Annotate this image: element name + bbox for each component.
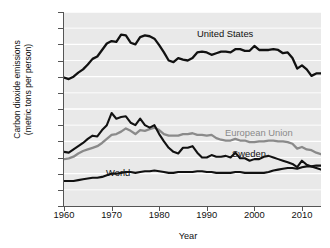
y-tick-mark (58, 93, 64, 94)
series-line-world (64, 166, 321, 181)
x-axis-title: Year (55, 231, 321, 241)
series-label-european-union: European Union (225, 127, 293, 138)
y-tick-mark (58, 44, 64, 45)
series-lines (64, 12, 321, 206)
co2-emissions-line-chart: Carbon dioxide emissions (metric tons pe… (0, 0, 330, 248)
x-tick-label: 2010 (292, 209, 313, 220)
y-tick-mark (58, 77, 64, 78)
y-tick-mark (58, 61, 64, 62)
plot-area (64, 12, 321, 206)
y-tick-mark (58, 109, 64, 110)
series-label-world: World (106, 167, 130, 178)
x-tick-label: 1980 (149, 209, 170, 220)
y-axis-title: Carbon dioxide emissions (metric tons pe… (12, 5, 33, 175)
y-tick-mark (58, 141, 64, 142)
y-tick-mark (58, 12, 64, 13)
x-tick-label: 1990 (196, 209, 217, 220)
x-tick-label: 2000 (244, 209, 265, 220)
y-tick-mark (58, 190, 64, 191)
series-line-united-states (64, 35, 321, 79)
series-label-united-states: United States (197, 28, 253, 39)
y-tick-mark (58, 174, 64, 175)
y-tick-mark (58, 28, 64, 29)
x-tick-label: 1960 (54, 209, 75, 220)
x-tick-label: 1970 (101, 209, 122, 220)
x-axis-line (63, 206, 321, 207)
y-tick-mark (58, 125, 64, 126)
y-tick-mark (58, 158, 64, 159)
series-label-sweden: Sweden (232, 148, 266, 159)
